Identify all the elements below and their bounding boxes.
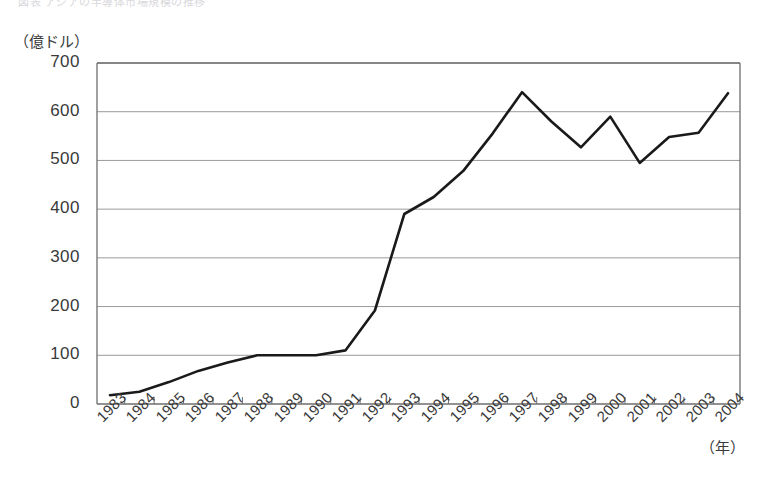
plot-frame <box>97 63 740 404</box>
y-axis-tick-600: 600 <box>8 101 80 121</box>
data-series-line <box>110 92 728 395</box>
y-axis-tick-400: 400 <box>8 198 80 218</box>
y-axis-tick-100: 100 <box>8 344 80 364</box>
y-axis-tick-0: 0 <box>8 393 80 413</box>
y-axis-tick-700: 700 <box>8 52 80 72</box>
y-axis-tick-500: 500 <box>8 149 80 169</box>
chart-figure: 図表 アジアの半導体市場規模の推移 （億ドル） 0100200300400500… <box>0 0 784 492</box>
gridlines-group <box>97 63 740 355</box>
y-axis-tick-300: 300 <box>8 247 80 267</box>
y-axis-tick-200: 200 <box>8 296 80 316</box>
x-axis-unit-label: （年） <box>700 436 745 457</box>
